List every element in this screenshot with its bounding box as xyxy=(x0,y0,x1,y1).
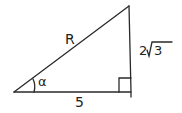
vertical-side-radicand: 3 xyxy=(154,43,162,58)
vertical-side-coefficient: 2 xyxy=(139,43,147,58)
right-angle-marker xyxy=(119,78,131,92)
hypotenuse-side xyxy=(14,6,129,92)
vertical-side xyxy=(129,6,131,92)
vertical-side-label: 2 3 xyxy=(139,42,172,58)
angle-arc xyxy=(33,79,35,92)
hypotenuse-label: R xyxy=(65,31,75,47)
triangle-diagram: R α 5 2 3 xyxy=(0,0,182,113)
angle-label: α xyxy=(38,74,47,89)
base-label: 5 xyxy=(75,94,84,110)
